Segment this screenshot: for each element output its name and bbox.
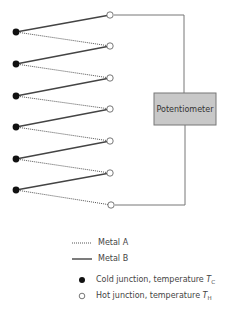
hot-junction-icon xyxy=(107,75,113,81)
metal-a-wire xyxy=(16,127,110,141)
legend-cold-sub: C xyxy=(211,279,215,285)
metal-b-wire xyxy=(16,78,110,96)
thermocouple-wires xyxy=(16,15,111,205)
metal-a-wire xyxy=(16,159,110,173)
metal-a-wire xyxy=(16,32,110,46)
hot-junction-icon xyxy=(107,106,113,112)
hot-junction-icon xyxy=(108,202,114,208)
hot-junction-icon xyxy=(107,170,113,176)
hot-junction-icon xyxy=(107,43,113,49)
metal-a-wire xyxy=(16,190,111,205)
legend-hot-junction-icon xyxy=(79,293,85,299)
metal-b-wire xyxy=(16,141,110,159)
potentiometer-label: Potentiometer xyxy=(154,93,216,125)
legend-hot-text: Hot junction, temperature xyxy=(96,291,203,300)
metal-b-wire xyxy=(16,109,110,127)
metal-a-wire xyxy=(16,64,110,78)
cold-junction-icon xyxy=(13,124,20,131)
legend-metal-b: Metal B xyxy=(98,254,128,264)
legend-cold-text: Cold junction, temperature xyxy=(96,275,206,284)
metal-b-wire xyxy=(16,46,110,64)
legend-cold-junction: Cold junction, temperature TC xyxy=(96,275,215,287)
cold-junction-icon xyxy=(13,61,20,68)
metal-b-wire xyxy=(16,173,110,190)
cold-junction-icon xyxy=(13,187,20,194)
metal-b-wire xyxy=(16,15,110,32)
cold-junction-icon xyxy=(13,29,20,36)
legend-hot-sub: H xyxy=(207,295,211,301)
cold-junction-icon xyxy=(13,93,20,100)
hot-junction-icon xyxy=(107,138,113,144)
top-lead-wire xyxy=(114,15,184,93)
legend-metal-a: Metal A xyxy=(98,238,128,248)
junctions xyxy=(13,12,115,208)
legend-hot-junction: Hot junction, temperature TH xyxy=(96,291,212,303)
cold-junction-icon xyxy=(13,156,20,163)
legend-cold-junction-icon xyxy=(79,277,85,283)
hot-junction-icon xyxy=(107,12,113,18)
bottom-lead-wire xyxy=(115,125,185,205)
metal-a-wire xyxy=(16,96,110,109)
